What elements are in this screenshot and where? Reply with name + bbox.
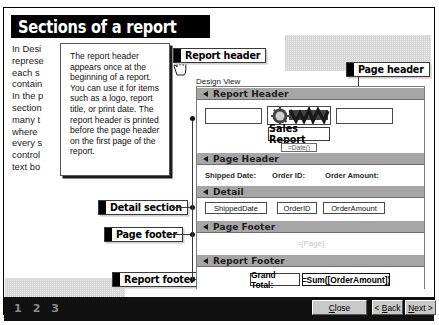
band-header-detail[interactable]: Detail [197,185,424,198]
screenshot-page: Sections of a report In Desi represe eac… [0,0,439,325]
band-label: Page Footer [213,222,275,232]
callout-report-header[interactable]: Report header [173,48,266,63]
section-page-header[interactable]: Shipped Date: Order ID: Order Amount: [197,165,424,185]
callout-bullet-icon [174,49,181,62]
section-page-footer[interactable]: =[Page] [197,233,424,254]
field-shipped-date[interactable]: ShippedDate [205,202,267,214]
page-title: Sections of a report [11,15,210,38]
callout-bullet-icon [99,201,106,214]
band-label: Detail [213,187,244,197]
page-title-text: Sections of a report [18,17,176,37]
band-header-page-footer[interactable]: Page Footer [197,220,424,233]
section-detail[interactable]: ShippedDate OrderID OrderAmount [197,198,424,220]
control-report-title[interactable]: Sales Report [268,127,330,141]
band-label: Report Footer [213,256,285,266]
leader-dot [190,116,195,121]
page-number[interactable]: 3 [51,302,59,315]
back-button[interactable]: < Back [372,300,403,315]
field-order-amount[interactable]: OrderAmount [323,202,385,214]
page-number[interactable]: 1 [14,302,22,315]
label-grand-total[interactable]: Grand Total: [250,273,300,286]
band-header-page-header[interactable]: Page Header [197,152,424,165]
band-header-report-footer[interactable]: Report Footer [197,254,424,267]
section-report-header[interactable]: Sales Report =Date() [197,100,424,152]
tooltip-text: The report header appears once at the be… [70,51,162,157]
field-order-id[interactable]: OrderID [277,202,317,214]
callout-bullet-icon [105,228,112,241]
control-grand-total-expression[interactable]: =Sum([OrderAmount]) [302,273,390,286]
control-date-expression[interactable]: =Date() [281,143,317,152]
band-label: Report Header [213,89,289,99]
band-label: Page Header [213,154,279,164]
callout-page-header[interactable]: Page header [346,62,430,77]
tooltip-popup: The report header appears once at the be… [60,43,170,176]
page-number-list[interactable]: 1 2 3 [14,302,59,315]
design-view-label: Design View [196,77,240,86]
control-blank-right[interactable] [336,108,393,124]
label-order-id[interactable]: Order ID: [272,171,305,180]
footer-bar [4,297,434,321]
callout-bullet-icon [113,273,120,286]
callout-label: Page header [354,63,429,76]
expand-triangle-icon[interactable] [203,156,208,162]
callout-label: Report header [181,49,265,62]
control-blank-left[interactable] [205,108,262,124]
callout-bullet-icon [347,63,354,76]
next-button[interactable]: Next > [405,300,436,315]
page-number[interactable]: 2 [33,302,41,315]
band-header-report-header[interactable]: Report Header [197,87,424,100]
control-page-expression[interactable]: =[Page] [197,239,424,248]
label-order-amount[interactable]: Order Amount: [325,171,379,180]
report-design-view[interactable]: Report Header Sales [196,86,425,289]
expand-triangle-icon[interactable] [203,224,208,230]
section-report-footer[interactable]: Grand Total: =Sum([OrderAmount]) [197,267,424,299]
leader-spine [192,118,193,280]
expand-triangle-icon[interactable] [203,189,208,195]
label-shipped-date[interactable]: Shipped Date: [205,171,256,180]
close-button[interactable]: Close [312,300,367,315]
expand-triangle-icon[interactable] [203,258,208,264]
expand-triangle-icon[interactable] [203,91,208,97]
